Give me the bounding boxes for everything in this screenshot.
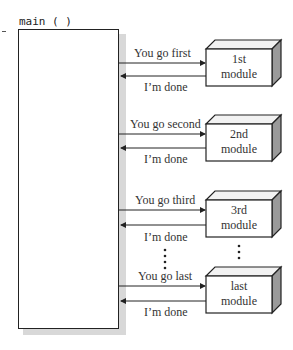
module-2-line2: module xyxy=(206,142,272,157)
call-label-last: You go last xyxy=(138,269,192,284)
call-label-2: You go second xyxy=(130,117,201,132)
module-last-line2: module xyxy=(206,294,272,309)
module-1-line2: module xyxy=(206,67,272,82)
module-3-label: 3rd module xyxy=(206,203,272,233)
return-label-3: I’m done xyxy=(144,230,188,245)
call-label-1: You go first xyxy=(134,46,191,61)
ellipsis-dots xyxy=(164,245,241,270)
module-1-top xyxy=(206,40,281,49)
module-last-line1: last xyxy=(206,279,272,294)
module-2-label: 2nd module xyxy=(206,127,272,157)
module-3-line2: module xyxy=(206,218,272,233)
module-1-label: 1st module xyxy=(206,52,272,82)
return-label-1: I’m done xyxy=(144,80,188,95)
return-label-last: I’m done xyxy=(144,305,188,320)
module-2-line1: 2nd xyxy=(206,127,272,142)
module-1-line1: 1st xyxy=(206,52,272,67)
return-label-2: I’m done xyxy=(144,152,188,167)
module-1-side xyxy=(272,40,281,86)
module-3-line1: 3rd xyxy=(206,203,272,218)
module-last-label: last module xyxy=(206,279,272,309)
call-label-3: You go third xyxy=(135,193,195,208)
